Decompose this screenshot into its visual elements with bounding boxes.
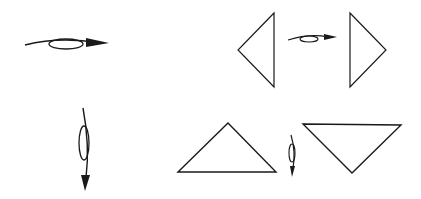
small-rotation-arrow-vertical (289, 135, 295, 177)
triangle-pointing-down (303, 124, 401, 173)
arrowhead-right-icon (86, 38, 109, 47)
rotation-ellipse-icon (300, 36, 318, 42)
triangle-pointing-up (178, 123, 276, 172)
arrowhead-down-icon (290, 166, 295, 177)
rotation-diagram (0, 0, 421, 199)
arrowhead-right-icon (324, 34, 337, 40)
triangle-pointing-left (238, 13, 274, 87)
rotation-arrow-vertical (79, 108, 90, 191)
triangle-pointing-right (350, 13, 386, 87)
rotation-arrow-horizontal (25, 38, 109, 49)
small-rotation-arrow-horizontal (288, 34, 337, 42)
arrowhead-down-icon (81, 175, 90, 191)
